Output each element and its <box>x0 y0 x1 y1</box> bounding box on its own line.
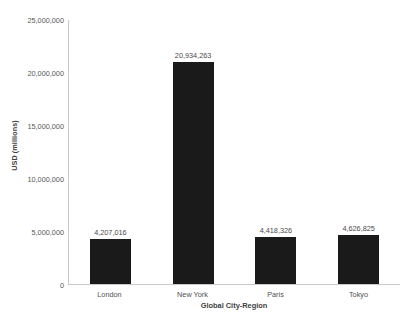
bar-value-label: 20,934,263 <box>175 51 212 60</box>
y-axis-tick-label: 5,000,000 <box>0 228 68 237</box>
bar-value-label: 4,207,016 <box>94 228 126 237</box>
y-axis-tick-labels: 05,000,00010,000,00015,000,00020,000,000… <box>0 0 68 323</box>
y-axis-tick-label: 15,000,000 <box>0 122 68 131</box>
bar-value-label: 4,626,825 <box>342 224 374 233</box>
x-axis-tick-label: London <box>68 287 151 299</box>
bar-item[interactable]: 4,207,016 <box>69 20 152 284</box>
x-axis-tick-label: Paris <box>234 287 317 299</box>
bar-item[interactable]: 4,418,326 <box>235 20 318 284</box>
x-axis-tick-label: Tokyo <box>317 287 400 299</box>
bar-item[interactable]: 4,626,825 <box>317 20 400 284</box>
y-axis-tick-label: 25,000,000 <box>0 16 68 25</box>
bar-item[interactable]: 20,934,263 <box>152 20 235 284</box>
bar-rect[interactable] <box>338 235 379 284</box>
bar-rect[interactable] <box>255 237 296 284</box>
bar-value-label: 4,418,326 <box>260 226 292 235</box>
y-axis-tick-label: 10,000,000 <box>0 175 68 184</box>
bar-chart: USD (millions) 05,000,00010,000,00015,00… <box>0 0 408 323</box>
x-axis-title: Global City-Region <box>68 301 400 310</box>
plot-area: 4,207,01620,934,2634,418,3264,626,825 <box>68 20 400 285</box>
y-axis-tick-label: 0 <box>0 281 68 290</box>
bar-rect[interactable] <box>173 62 214 284</box>
x-axis-tick-label: New York <box>151 287 234 299</box>
y-axis-tick-label: 20,000,000 <box>0 69 68 78</box>
bar-rect[interactable] <box>90 239 131 284</box>
bar-series: 4,207,01620,934,2634,418,3264,626,825 <box>69 20 400 284</box>
